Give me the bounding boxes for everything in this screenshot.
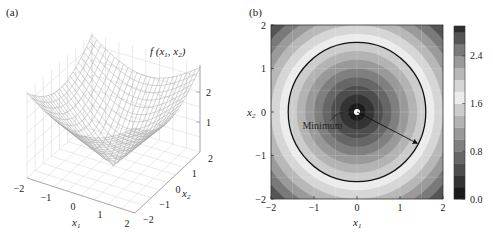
colorbar: 0.00.81.62.4: [454, 26, 483, 205]
svg-text:−2: −2: [255, 194, 266, 205]
x2-axis-label: x2: [181, 187, 191, 201]
svg-text:0: 0: [71, 201, 76, 212]
svg-text:−1: −1: [309, 202, 320, 213]
svg-text:1: 1: [98, 209, 103, 220]
z-axis-label: f (x1, x2): [150, 45, 186, 59]
surface-plot-3d: −2−1012−2−101212f (x1, x2)x1x2: [0, 0, 245, 238]
x1-axis-label: x1: [71, 216, 80, 230]
svg-text:2: 2: [441, 202, 446, 213]
svg-text:1: 1: [206, 117, 211, 128]
svg-text:1: 1: [192, 168, 197, 179]
svg-text:0.8: 0.8: [470, 146, 483, 157]
svg-text:0: 0: [176, 184, 181, 195]
svg-text:1: 1: [398, 202, 403, 213]
x1-axis-label: x1: [352, 216, 361, 230]
svg-text:1: 1: [261, 63, 266, 74]
x2-axis-label: x2: [246, 106, 256, 120]
svg-text:0: 0: [261, 107, 266, 118]
svg-text:2: 2: [208, 153, 213, 164]
svg-text:2: 2: [125, 218, 130, 229]
figure: (a) (b) −2−1012−2−101212f (x1, x2)x1x2 M…: [0, 0, 493, 238]
svg-text:−1: −1: [41, 192, 52, 203]
svg-text:−1: −1: [159, 199, 170, 210]
svg-text:2: 2: [206, 87, 211, 98]
svg-text:−1: −1: [255, 150, 266, 161]
svg-text:−2: −2: [143, 214, 154, 225]
svg-text:−2: −2: [14, 183, 25, 194]
svg-text:1.6: 1.6: [470, 98, 483, 109]
svg-text:2.4: 2.4: [470, 50, 483, 61]
svg-text:0: 0: [355, 202, 360, 213]
contour-plot: Minimum−2−1012−2−1012x1x20.00.81.62.4: [245, 0, 493, 238]
svg-text:−2: −2: [266, 202, 277, 213]
svg-text:0.0: 0.0: [470, 194, 483, 205]
contour-fills: [245, 0, 486, 238]
svg-text:2: 2: [261, 20, 266, 31]
minimum-annotation: Minimum: [302, 120, 342, 131]
